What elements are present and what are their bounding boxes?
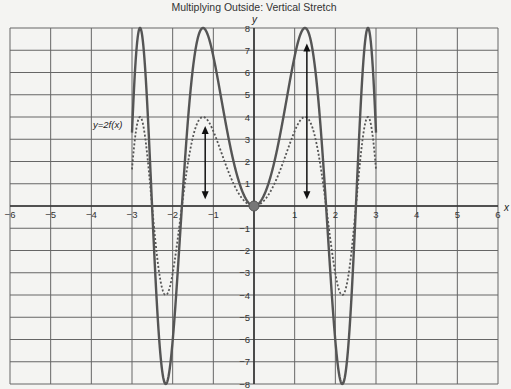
stretch-arrows	[202, 44, 311, 200]
svg-text:−4: −4	[86, 209, 97, 220]
x-axis-label: x	[503, 202, 510, 213]
svg-text:4: 4	[245, 112, 250, 123]
svg-text:−2: −2	[239, 245, 250, 256]
svg-text:5: 5	[455, 209, 460, 220]
svg-text:−1: −1	[208, 209, 219, 220]
svg-text:−5: −5	[239, 312, 250, 323]
svg-text:4: 4	[414, 209, 419, 220]
svg-text:2: 2	[333, 209, 338, 220]
svg-text:−6: −6	[239, 334, 250, 345]
origin-point	[249, 201, 259, 211]
svg-text:5: 5	[245, 89, 250, 100]
svg-text:8: 8	[245, 23, 250, 34]
svg-text:6: 6	[245, 67, 250, 78]
svg-text:−3: −3	[239, 267, 250, 278]
svg-text:3: 3	[373, 209, 378, 220]
svg-text:−1: −1	[239, 223, 250, 234]
chart-title: Multiplying Outside: Vertical Stretch	[171, 1, 336, 13]
svg-text:7: 7	[245, 45, 250, 56]
svg-text:−3: −3	[127, 209, 138, 220]
svg-text:−6: −6	[5, 209, 16, 220]
y-axis-label: y	[251, 14, 258, 25]
svg-text:−4: −4	[239, 290, 250, 301]
svg-text:1: 1	[245, 178, 250, 189]
svg-text:−2: −2	[167, 209, 178, 220]
svg-text:−8: −8	[239, 379, 250, 389]
series-annotation: y=2f(x)	[92, 119, 122, 130]
svg-text:−7: −7	[239, 356, 250, 367]
svg-text:3: 3	[245, 134, 250, 145]
svg-text:6: 6	[495, 209, 500, 220]
chart: Multiplying Outside: Vertical Stretch −6…	[0, 0, 511, 389]
svg-text:1: 1	[292, 209, 297, 220]
svg-text:2: 2	[245, 156, 250, 167]
svg-text:−5: −5	[45, 209, 56, 220]
